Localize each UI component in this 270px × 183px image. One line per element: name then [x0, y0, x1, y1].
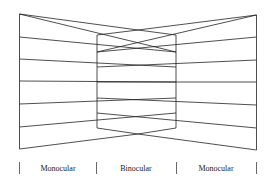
visual-field-diagram	[0, 0, 270, 183]
label-monocular-right: Monocular	[181, 164, 251, 173]
label-binocular: Binocular	[101, 164, 171, 173]
label-monocular-left: Monocular	[23, 164, 93, 173]
